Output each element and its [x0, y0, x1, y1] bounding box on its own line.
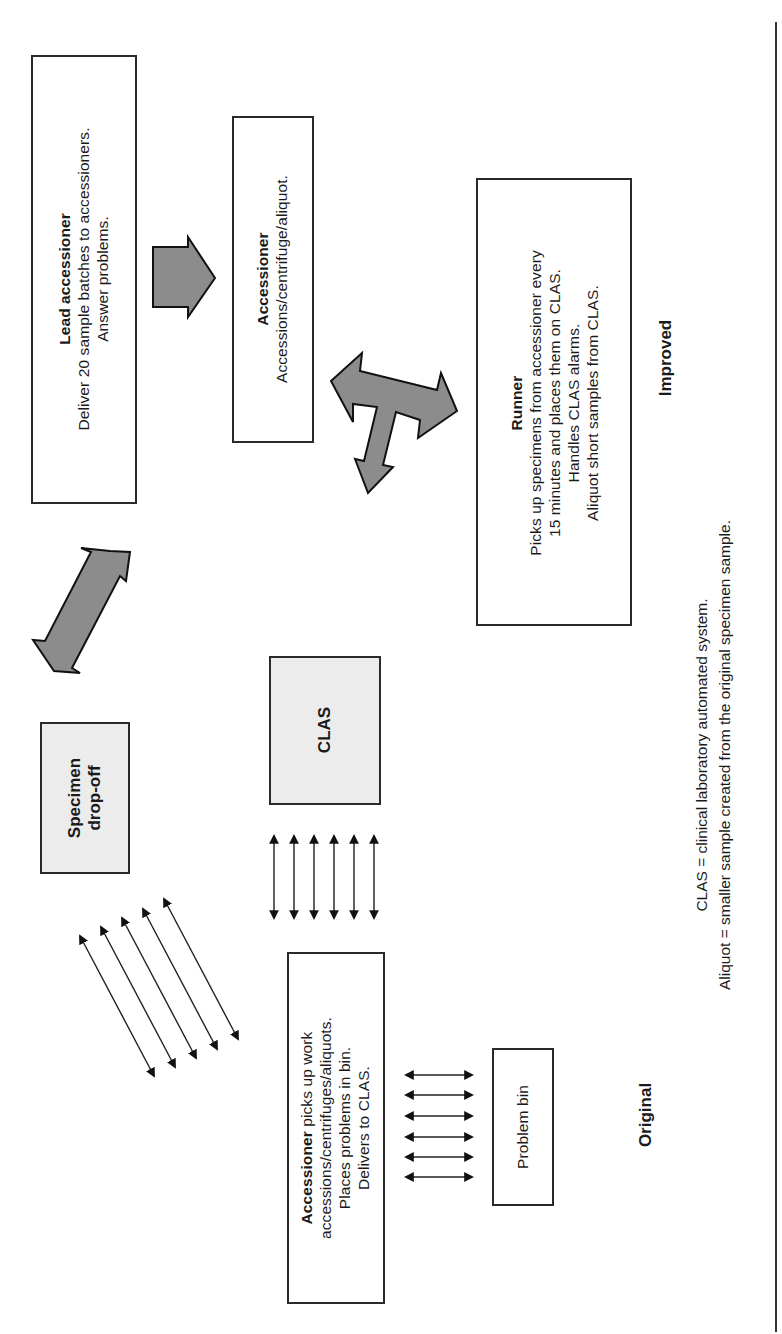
vertical-double-arrows	[274, 836, 374, 918]
horizontal-double-arrows	[406, 1075, 472, 1177]
double-block-arrow-icon	[33, 548, 130, 673]
diagonal-double-arrows	[80, 899, 238, 1076]
triple-block-arrow-icon	[331, 353, 457, 493]
arrows-layer	[0, 0, 782, 1334]
block-arrow-right-icon	[153, 237, 215, 317]
